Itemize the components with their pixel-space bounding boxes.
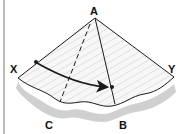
- point-x-dot: [34, 60, 38, 64]
- cone-diagram: A X Y B C: [0, 0, 188, 134]
- label-x: X: [10, 63, 18, 75]
- point-b-dot: [110, 85, 114, 89]
- label-c: C: [45, 119, 53, 131]
- label-a: A: [90, 5, 98, 17]
- label-b: B: [119, 119, 127, 131]
- cone-surface: [18, 18, 174, 106]
- label-y: Y: [168, 63, 176, 75]
